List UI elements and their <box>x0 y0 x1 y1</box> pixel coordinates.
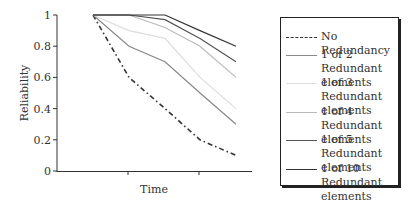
series-lines <box>93 15 236 155</box>
solid-line-icon <box>286 169 317 170</box>
y-tick-label: 0.4 <box>34 103 52 116</box>
solid-line-icon <box>286 140 317 141</box>
y-tick-label: 0.8 <box>34 40 52 53</box>
legend: No Redundancy 1 of 2 Redundant elements … <box>280 17 399 186</box>
dash-dot-line-icon <box>286 37 317 38</box>
y-axis-title: Reliability <box>18 64 31 121</box>
y-tick-label: 0.6 <box>34 71 52 84</box>
solid-line-icon <box>286 55 317 56</box>
y-tick-label: 0 <box>44 165 51 178</box>
y-tick-label: 1 <box>44 9 51 22</box>
x-axis <box>57 171 252 175</box>
series-line-1 <box>93 15 236 124</box>
legend-label: 1 of 10 Redundant elements <box>321 162 399 204</box>
solid-line-icon <box>286 83 317 84</box>
series-line-0 <box>93 15 236 155</box>
y-axis <box>53 15 57 172</box>
solid-line-icon <box>286 112 317 113</box>
y-tick-label: 0.2 <box>34 134 52 147</box>
y-tick-labels: 00.20.40.60.81 <box>34 9 52 178</box>
x-axis-title: Time <box>140 183 168 196</box>
